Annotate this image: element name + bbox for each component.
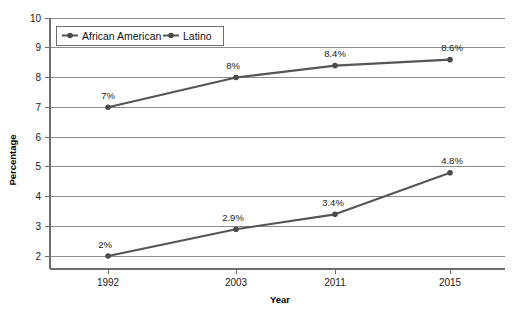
legend-marker-icon bbox=[67, 33, 73, 39]
y-axis-title: Percentage bbox=[7, 134, 18, 185]
data-point bbox=[447, 57, 453, 63]
x-tick-label: 2011 bbox=[324, 277, 346, 288]
data-label: 2.9% bbox=[222, 212, 244, 223]
data-label: 7% bbox=[101, 90, 115, 101]
y-tick-label: 8 bbox=[35, 72, 41, 83]
x-tick-label: 1992 bbox=[97, 277, 120, 288]
data-label: 3.4% bbox=[322, 197, 344, 208]
x-tick-label: 2003 bbox=[225, 277, 248, 288]
data-label: 4.8% bbox=[441, 155, 463, 166]
data-label: 2% bbox=[98, 239, 112, 250]
legend-label: Latino bbox=[183, 30, 212, 42]
data-label: 8.6% bbox=[441, 42, 463, 53]
y-tick-label: 6 bbox=[35, 132, 41, 143]
line-chart: 10 9 8 7 6 5 4 3 2 1992 2003 2011 2015 Y… bbox=[0, 0, 519, 311]
data-point bbox=[105, 253, 111, 259]
data-label: 8% bbox=[226, 60, 240, 71]
chart-canvas: 10 9 8 7 6 5 4 3 2 1992 2003 2011 2015 Y… bbox=[0, 0, 519, 311]
x-axis-title: Year bbox=[270, 294, 290, 305]
data-point bbox=[105, 104, 111, 110]
legend-marker-icon bbox=[168, 33, 174, 39]
y-tick-label: 10 bbox=[30, 13, 42, 24]
data-point bbox=[233, 226, 239, 232]
data-point bbox=[332, 63, 338, 69]
data-label: 8.4% bbox=[324, 48, 346, 59]
data-point bbox=[447, 170, 453, 176]
x-tick-label: 2015 bbox=[439, 277, 462, 288]
y-tick-label: 4 bbox=[35, 191, 41, 202]
data-point bbox=[332, 212, 338, 218]
y-tick-label: 9 bbox=[35, 42, 41, 53]
chart-legend: African American Latino bbox=[56, 26, 223, 45]
y-tick-label: 2 bbox=[35, 251, 41, 262]
y-tick-label: 3 bbox=[35, 221, 41, 232]
y-tick-label: 7 bbox=[35, 102, 41, 113]
data-point bbox=[233, 75, 239, 81]
legend-label: African American bbox=[82, 30, 162, 42]
y-tick-label: 5 bbox=[35, 161, 41, 172]
